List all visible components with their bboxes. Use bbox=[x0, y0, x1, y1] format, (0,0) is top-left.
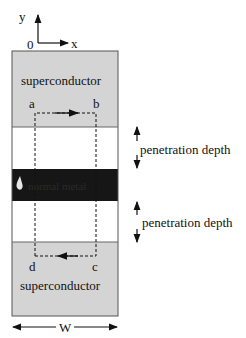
penetration-depth-top-label: penetration depth bbox=[140, 143, 231, 156]
penetration-depth-bottom-label: penetration depth bbox=[142, 216, 233, 229]
corner-c-label: c bbox=[92, 260, 98, 273]
x-axis-label: x bbox=[71, 37, 78, 50]
penetration-region-bottom bbox=[12, 201, 118, 242]
barrier-label: normal metal bbox=[28, 180, 86, 193]
corner-b-label: b bbox=[93, 97, 100, 110]
superconductor-top-region bbox=[12, 51, 118, 127]
corner-d-label: d bbox=[29, 260, 36, 273]
superconductor-bottom-label: superconductor bbox=[20, 279, 100, 292]
axis-arrows bbox=[38, 15, 68, 43]
y-axis-label: y bbox=[19, 10, 26, 23]
origin-label: 0 bbox=[27, 38, 34, 51]
superconductor-top-label: superconductor bbox=[21, 74, 101, 87]
corner-a-label: a bbox=[29, 97, 35, 110]
penetration-region-top bbox=[12, 127, 118, 169]
width-label: W bbox=[59, 321, 71, 334]
